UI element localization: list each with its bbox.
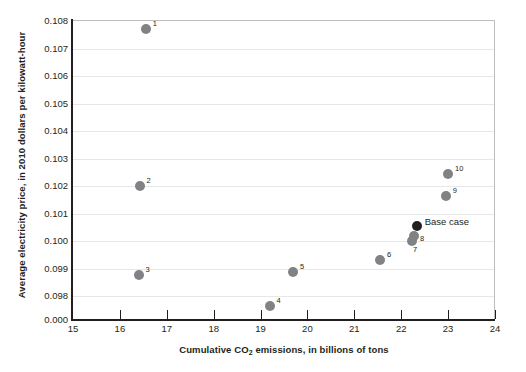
gridline	[73, 214, 495, 215]
y-tick-label: 0.100	[4, 236, 68, 246]
data-point-label: 6	[387, 251, 391, 259]
data-point-label: 3	[146, 266, 150, 274]
data-point-label-base-case: Base case	[425, 218, 469, 226]
plot-border-right	[494, 20, 495, 320]
data-point-base-case	[412, 221, 422, 231]
gridline	[73, 159, 495, 160]
x-tick-label: 24	[475, 323, 515, 334]
x-tick-label: 23	[428, 323, 468, 334]
x-tick-label: 19	[241, 323, 281, 334]
plot-border-top	[73, 20, 495, 21]
scatter-chart-figure: Average electricity price, in 2010 dolla…	[0, 0, 526, 372]
y-tick-label: 0.107	[4, 44, 68, 54]
gridline	[73, 76, 495, 77]
x-axis-title: Cumulative CO2 emissions, in billions of…	[73, 344, 495, 356]
x-tick-mark	[448, 310, 449, 319]
data-point	[141, 24, 151, 34]
y-tick-label: 0.105	[4, 99, 68, 109]
x-tick-mark	[495, 310, 496, 319]
x-tick-label: 21	[334, 323, 374, 334]
gridline	[73, 104, 495, 105]
x-tick-label: 15	[53, 323, 93, 334]
y-axis-tick-labels: 0.0980.0990.1000.1010.1020.1030.1040.105…	[0, 0, 68, 372]
x-tick-label: 20	[287, 323, 327, 334]
x-axis-title-post: emissions, in billions of tons	[253, 344, 389, 355]
x-tick-mark	[354, 310, 355, 319]
data-point	[288, 267, 298, 277]
data-point	[375, 255, 385, 265]
x-tick-label: 16	[100, 323, 140, 334]
y-tick-label: 0.108	[4, 16, 68, 26]
gridline	[73, 296, 495, 297]
data-point	[135, 181, 145, 191]
data-point-label: 5	[300, 263, 304, 271]
data-point-label: 9	[453, 187, 457, 195]
data-point-label: 7	[413, 246, 417, 254]
gridline	[73, 269, 495, 270]
data-point-label: 8	[420, 235, 424, 243]
data-point	[441, 191, 451, 201]
data-point	[134, 270, 144, 280]
data-point	[443, 169, 453, 179]
y-tick-label: 0.102	[4, 181, 68, 191]
gridline	[73, 49, 495, 50]
gridline	[73, 131, 495, 132]
x-tick-mark	[401, 310, 402, 319]
data-point	[265, 301, 275, 311]
data-point-label: 10	[455, 165, 463, 173]
data-point-label: 1	[153, 20, 157, 28]
y-tick-label: 0.099	[4, 264, 68, 274]
data-point-label: 4	[277, 297, 281, 305]
gridline	[73, 241, 495, 242]
x-tick-mark	[307, 310, 308, 319]
x-tick-mark	[214, 310, 215, 319]
data-point-label: 2	[147, 177, 151, 185]
y-tick-label: 0.098	[4, 291, 68, 301]
y-tick-label: 0.106	[4, 71, 68, 81]
x-tick-mark	[120, 310, 121, 319]
y-tick-label: 0.104	[4, 126, 68, 136]
x-tick-mark	[261, 310, 262, 319]
data-point	[409, 231, 419, 241]
y-axis-line	[71, 19, 73, 321]
x-tick-label: 17	[147, 323, 187, 334]
x-tick-mark	[167, 310, 168, 319]
x-tick-label: 22	[381, 323, 421, 334]
y-tick-label: 0.103	[4, 154, 68, 164]
x-axis-title-pre: Cumulative CO	[179, 344, 248, 355]
x-tick-label: 18	[194, 323, 234, 334]
x-axis-line	[71, 319, 495, 321]
y-tick-label: 0.101	[4, 209, 68, 219]
